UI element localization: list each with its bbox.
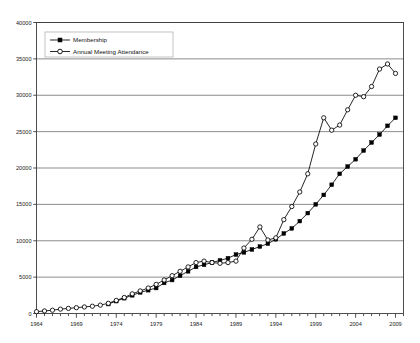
- x-axis-ticks: [37, 314, 404, 318]
- chart-container: 0500010000150002000025000300003500040000…: [0, 0, 420, 343]
- legend-marker-open-circle-icon: [58, 49, 63, 54]
- data-series: [34, 62, 397, 314]
- data-point-attendance: [130, 292, 134, 296]
- y-axis-labels: 0500010000150002000025000300003500040000: [16, 20, 32, 317]
- data-point-membership: [234, 253, 238, 257]
- data-point-attendance: [210, 260, 214, 264]
- line-chart: 0500010000150002000025000300003500040000…: [0, 0, 420, 343]
- data-point-attendance: [170, 274, 174, 278]
- data-point-attendance: [82, 305, 86, 309]
- data-point-attendance: [298, 190, 302, 194]
- data-point-attendance: [194, 260, 198, 264]
- legend-marker-filled-square-icon: [58, 38, 62, 42]
- data-point-attendance: [242, 246, 246, 250]
- data-point-attendance: [218, 261, 222, 265]
- y-axis-tick-label: 10000: [16, 238, 32, 244]
- data-point-membership: [386, 124, 390, 128]
- data-point-membership: [306, 211, 310, 215]
- y-axis-tick-label: 5000: [19, 274, 31, 280]
- x-axis-tick-label: 1964: [30, 321, 42, 327]
- data-point-membership: [298, 219, 302, 223]
- data-point-attendance: [146, 286, 150, 290]
- y-axis-tick-label: 30000: [16, 92, 32, 98]
- data-point-membership: [226, 256, 230, 260]
- data-point-membership: [194, 265, 198, 269]
- data-point-membership: [346, 165, 350, 169]
- data-point-attendance: [154, 282, 158, 286]
- data-point-attendance: [186, 265, 190, 269]
- y-axis-tick-label: 40000: [16, 20, 32, 26]
- x-axis-tick-label: 1979: [150, 321, 162, 327]
- data-point-attendance: [234, 259, 238, 263]
- data-point-attendance: [306, 172, 310, 176]
- data-point-attendance: [250, 237, 254, 241]
- data-point-attendance: [322, 116, 326, 120]
- x-axis-tick-label: 1984: [190, 321, 202, 327]
- data-point-membership: [338, 172, 342, 176]
- x-axis-tick-label: 1974: [110, 321, 122, 327]
- data-point-membership: [258, 245, 262, 249]
- data-point-membership: [250, 248, 254, 252]
- data-point-attendance: [393, 71, 397, 75]
- data-point-membership: [378, 133, 382, 137]
- x-axis-tick-label: 2009: [389, 321, 401, 327]
- data-point-attendance: [314, 142, 318, 146]
- data-point-attendance: [258, 225, 262, 229]
- data-point-membership: [186, 269, 190, 273]
- data-point-membership: [322, 193, 326, 197]
- y-axis-tick-label: 35000: [16, 56, 32, 62]
- data-point-attendance: [66, 306, 70, 310]
- data-point-attendance: [385, 62, 389, 66]
- data-point-attendance: [369, 84, 373, 88]
- data-point-attendance: [202, 259, 206, 263]
- x-axis-tick-label: 2004: [349, 321, 361, 327]
- data-point-attendance: [90, 304, 94, 308]
- series-line-membership: [108, 118, 395, 304]
- data-point-attendance: [106, 301, 110, 305]
- y-axis-tick-label: 25000: [16, 129, 32, 135]
- data-point-attendance: [290, 204, 294, 208]
- legend-label: Membership: [73, 36, 108, 43]
- data-point-membership: [170, 278, 174, 282]
- data-point-attendance: [162, 278, 166, 282]
- data-point-membership: [362, 149, 366, 153]
- data-point-membership: [242, 251, 246, 255]
- data-point-membership: [282, 232, 286, 236]
- data-point-attendance: [74, 306, 78, 310]
- data-point-attendance: [274, 236, 278, 240]
- y-axis-tick-label: 15000: [16, 201, 32, 207]
- y-axis-tick-label: 20000: [16, 165, 32, 171]
- data-point-membership: [314, 203, 318, 207]
- gridlines: [37, 23, 404, 278]
- data-point-attendance: [98, 303, 102, 307]
- data-point-membership: [290, 227, 294, 231]
- y-axis-ticks: [33, 23, 36, 314]
- x-axis-labels: 1964196919741979198419891994199920042009: [30, 321, 401, 327]
- data-point-attendance: [338, 123, 342, 127]
- data-point-membership: [330, 183, 334, 187]
- data-point-attendance: [330, 128, 334, 132]
- data-point-attendance: [377, 67, 381, 71]
- data-point-attendance: [34, 310, 38, 314]
- data-point-attendance: [50, 308, 54, 312]
- chart-legend: MembershipAnnual Meeting Attendance: [45, 32, 173, 57]
- data-point-attendance: [346, 108, 350, 112]
- data-point-attendance: [58, 307, 62, 311]
- data-point-membership: [370, 141, 374, 145]
- data-point-membership: [354, 157, 358, 161]
- data-point-attendance: [226, 260, 230, 264]
- data-point-attendance: [138, 289, 142, 293]
- data-point-attendance: [266, 238, 270, 242]
- data-point-attendance: [114, 298, 118, 302]
- data-point-attendance: [361, 95, 365, 99]
- x-axis-tick-label: 1994: [270, 321, 282, 327]
- legend-label: Annual Meeting Attendance: [73, 48, 149, 55]
- x-axis-tick-label: 1999: [310, 321, 322, 327]
- data-point-attendance: [178, 269, 182, 273]
- data-point-membership: [394, 116, 398, 120]
- data-point-attendance: [282, 218, 286, 222]
- data-point-attendance: [42, 309, 46, 313]
- data-point-attendance: [353, 93, 357, 97]
- data-point-attendance: [122, 295, 126, 299]
- y-axis-tick-label: 0: [28, 311, 31, 317]
